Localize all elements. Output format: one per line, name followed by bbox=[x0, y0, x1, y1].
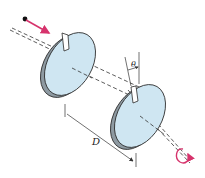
disk-1 bbox=[30, 24, 106, 107]
velocity-arrow bbox=[26, 20, 49, 33]
rotation-arrow-icon bbox=[176, 149, 188, 163]
diagram-canvas bbox=[0, 0, 205, 178]
angle-dimension bbox=[125, 52, 139, 86]
distance-label: D bbox=[92, 136, 100, 147]
theta-label: θ bbox=[131, 60, 136, 69]
